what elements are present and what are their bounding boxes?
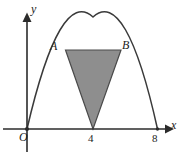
figure-container: y x A B O 4 8 — [0, 0, 182, 164]
point-a-label: A — [50, 40, 57, 52]
y-axis-label: y — [31, 3, 36, 15]
point-b-label: B — [122, 39, 129, 51]
x-tick-label-8: 8 — [152, 133, 158, 144]
x-intercept-8-dot — [156, 127, 159, 130]
x-tick-label-4: 4 — [88, 133, 94, 144]
shaded-triangle-region — [66, 50, 122, 129]
origin-label: O — [19, 131, 28, 143]
x-axis-label: x — [171, 119, 176, 131]
